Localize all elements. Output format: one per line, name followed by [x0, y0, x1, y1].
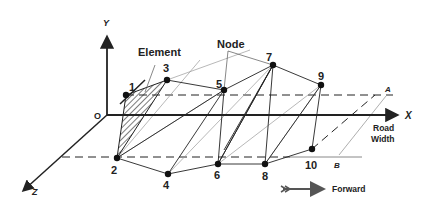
forward-arrow-icon	[281, 186, 322, 192]
node-label: Node	[217, 38, 245, 50]
road-width-label-line2: Width	[371, 134, 395, 144]
node-label-1: 1	[129, 81, 135, 93]
node-10	[309, 146, 315, 152]
node-9	[318, 82, 324, 88]
z-axis-label: Z	[31, 187, 38, 197]
y-axis-label: Y	[103, 18, 110, 28]
node-label-4: 4	[163, 179, 170, 191]
node-2	[114, 155, 120, 161]
road-width-label-line1: Road	[373, 123, 394, 133]
node-label-10: 10	[305, 159, 317, 171]
node-label-8: 8	[262, 170, 268, 182]
element-label: Element	[138, 46, 181, 58]
node-label-9: 9	[318, 70, 324, 82]
node-4	[165, 171, 171, 177]
road-mesh-diagram: 1 2 3 4 5 6 7 8 9 10 Y X Z O A B Element…	[0, 0, 429, 210]
node-label-5: 5	[216, 78, 222, 90]
axes	[24, 38, 396, 190]
z-axis	[24, 115, 107, 190]
x-axis-label: X	[404, 110, 413, 121]
point-a-label: A	[384, 85, 391, 94]
point-b-label: B	[334, 161, 340, 170]
forward-label: Forward	[332, 184, 366, 194]
node-3	[164, 77, 170, 83]
origin-label: O	[94, 111, 101, 121]
node-label-3: 3	[163, 62, 169, 74]
element-hatched	[117, 80, 167, 158]
node-label-6: 6	[214, 169, 220, 181]
mesh-lines	[117, 51, 321, 174]
node-label-7: 7	[266, 51, 272, 63]
node-label-2: 2	[111, 164, 117, 176]
node-labels: 1 2 3 4 5 6 7 8 9 10	[111, 51, 324, 191]
node-6	[215, 161, 221, 167]
node-8	[262, 161, 268, 167]
